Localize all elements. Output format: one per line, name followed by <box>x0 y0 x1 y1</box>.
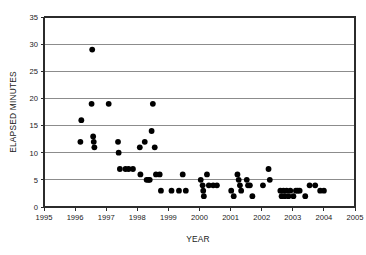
x-axis-title: YEAR <box>186 234 210 244</box>
y-tick-label-15: 15 <box>30 121 38 130</box>
data-point <box>169 188 175 194</box>
x-tick-label-1999: 1999 <box>160 213 177 222</box>
data-point <box>307 182 313 188</box>
data-point <box>90 134 96 140</box>
y-tick-label-25: 25 <box>30 67 38 76</box>
data-point <box>291 193 297 199</box>
data-point <box>91 144 97 150</box>
data-point <box>266 166 272 172</box>
y-tick-label-5: 5 <box>34 176 38 185</box>
data-point <box>312 182 318 188</box>
data-point <box>297 188 303 194</box>
data-point <box>183 188 189 194</box>
y-tick-label-0: 0 <box>34 203 38 212</box>
x-tick-label-2002: 2002 <box>253 213 270 222</box>
data-point <box>204 172 210 178</box>
y-tick-label-30: 30 <box>30 40 38 49</box>
data-point <box>149 128 155 134</box>
data-point <box>302 193 308 199</box>
data-point <box>91 139 97 145</box>
data-point <box>176 188 182 194</box>
x-tick-label-1996: 1996 <box>67 213 84 222</box>
data-point <box>157 172 163 178</box>
data-point <box>286 193 292 199</box>
data-point <box>236 177 242 183</box>
y-tick-label-20: 20 <box>30 94 38 103</box>
data-point <box>260 182 266 188</box>
data-point <box>228 188 234 194</box>
data-point <box>130 166 136 172</box>
x-tick-label-1995: 1995 <box>36 213 53 222</box>
scatter-chart: 05101520253035 1995199619971998199920002… <box>0 0 366 255</box>
data-point <box>238 188 244 194</box>
data-point <box>201 193 207 199</box>
data-point <box>150 101 156 107</box>
x-tick-label-2003: 2003 <box>284 213 301 222</box>
data-point <box>214 182 220 188</box>
data-point <box>142 139 148 145</box>
data-point <box>138 172 144 178</box>
data-point <box>235 172 241 178</box>
data-point <box>237 182 243 188</box>
x-tick-label-2000: 2000 <box>191 213 208 222</box>
data-point <box>78 117 84 123</box>
data-point <box>200 182 206 188</box>
data-point <box>244 177 250 183</box>
data-point <box>321 188 327 194</box>
data-point <box>247 182 253 188</box>
data-point <box>180 172 186 178</box>
data-point <box>200 188 206 194</box>
x-tick-label-1997: 1997 <box>98 213 115 222</box>
x-tick-label-2005: 2005 <box>347 213 364 222</box>
data-point <box>137 144 143 150</box>
data-point <box>198 177 204 183</box>
data-point <box>287 188 293 194</box>
data-point <box>77 139 83 145</box>
data-point <box>89 101 95 107</box>
x-tick-label-1998: 1998 <box>129 213 146 222</box>
data-point <box>267 177 273 183</box>
x-tick-label-2004: 2004 <box>315 213 332 222</box>
data-point <box>249 193 255 199</box>
data-point <box>115 139 121 145</box>
data-point <box>117 166 123 172</box>
chart-background <box>0 0 366 255</box>
y-tick-label-35: 35 <box>30 13 38 22</box>
x-tick-label-2001: 2001 <box>222 213 239 222</box>
data-point <box>147 177 153 183</box>
data-point <box>231 193 237 199</box>
data-point <box>106 101 112 107</box>
data-point <box>152 144 158 150</box>
y-tick-label-10: 10 <box>30 149 38 158</box>
data-point <box>158 188 164 194</box>
y-axis-title: ELAPSED MINUTES <box>8 71 18 153</box>
chart-canvas: 05101520253035 1995199619971998199920002… <box>0 0 366 255</box>
data-point <box>89 47 95 53</box>
data-point <box>116 150 122 156</box>
